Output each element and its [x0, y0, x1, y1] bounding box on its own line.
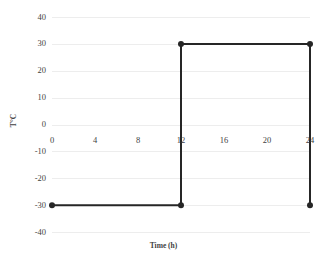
- y-axis-tick-label: 10: [6, 93, 46, 102]
- gridline-horizontal: [52, 151, 310, 152]
- y-axis-tick-label: 20: [6, 66, 46, 75]
- gridline-horizontal: [52, 17, 310, 18]
- gridline-horizontal: [52, 125, 310, 126]
- gridline-horizontal: [52, 232, 310, 233]
- x-axis-tick-label: 12: [169, 136, 193, 145]
- chart-container: T°C Time (h) 403020100-10-20-30-40048121…: [0, 0, 327, 267]
- gridline-horizontal: [52, 205, 310, 206]
- gridline-horizontal: [52, 71, 310, 72]
- plot-area: [52, 17, 310, 232]
- gridline-horizontal: [52, 98, 310, 99]
- x-axis-title: Time (h): [0, 241, 327, 250]
- x-axis-tick-label: 4: [83, 136, 107, 145]
- x-axis-tick-label: 24: [298, 136, 322, 145]
- x-axis-tick-label: 8: [126, 136, 150, 145]
- x-axis-tick-label: 0: [40, 136, 64, 145]
- y-axis-tick-label: -10: [6, 147, 46, 156]
- y-axis-tick-label: 0: [6, 120, 46, 129]
- y-axis-tick-label: -20: [6, 174, 46, 183]
- y-axis-tick-label: -30: [6, 201, 46, 210]
- gridline-horizontal: [52, 178, 310, 179]
- gridline-horizontal: [52, 44, 310, 45]
- y-axis-tick-label: -40: [6, 228, 46, 237]
- y-axis-tick-label: 40: [6, 13, 46, 22]
- x-axis-tick-label: 20: [255, 136, 279, 145]
- y-axis-tick-label: 30: [6, 39, 46, 48]
- x-axis-tick-label: 16: [212, 136, 236, 145]
